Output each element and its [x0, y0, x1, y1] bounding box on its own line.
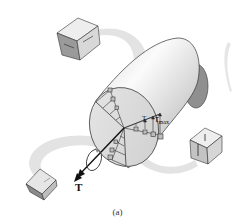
tau-max-label: τmax: [155, 114, 169, 125]
torsion-diagram: [0, 0, 235, 223]
ribbon-far-right: [224, 42, 232, 92]
stress-element-bottom-left: [26, 169, 57, 200]
applied-torque-label: T: [75, 182, 82, 193]
figure-caption: (a): [0, 207, 235, 217]
stress-element-right: [190, 128, 222, 164]
tau-subscript: max: [159, 119, 169, 125]
stress-element-top-left: [57, 18, 100, 60]
internal-torque-label: T: [142, 115, 146, 122]
